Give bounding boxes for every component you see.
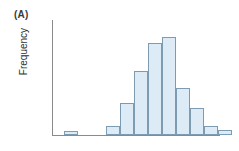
histogram-bar xyxy=(218,130,232,135)
histogram-bar xyxy=(134,71,148,135)
histogram-figure: (A) Frequency xyxy=(0,0,239,151)
histogram-bar xyxy=(120,103,134,135)
histogram-bar xyxy=(190,108,204,135)
histogram-bar xyxy=(176,88,190,135)
histogram-bar xyxy=(148,43,162,135)
histogram-bar xyxy=(204,126,218,135)
histogram-bar xyxy=(64,131,78,135)
histogram-bar xyxy=(106,126,120,135)
histogram-bar xyxy=(162,37,176,135)
plot-area: Frequency xyxy=(0,0,239,151)
bar-series xyxy=(0,0,239,151)
